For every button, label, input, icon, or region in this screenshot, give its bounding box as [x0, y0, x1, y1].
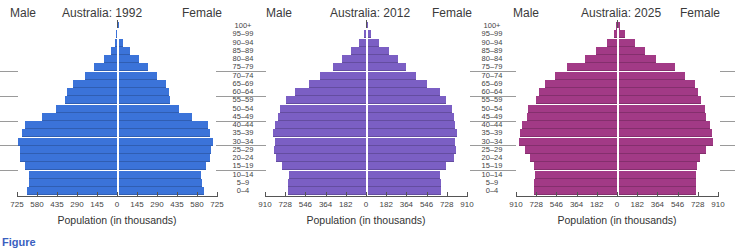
male-bar-55–59 — [536, 96, 617, 104]
x-tick — [617, 192, 618, 196]
x-tick — [698, 192, 699, 196]
male-bar-40–44 — [522, 121, 617, 129]
x-tick-label: 182 — [631, 200, 644, 209]
age-group-label: 40–44 — [477, 121, 507, 129]
age-group-label: 90–94 — [228, 39, 258, 47]
x-tick-label: 546 — [671, 200, 684, 209]
age-group-label: 5–9 — [477, 179, 507, 187]
guide-line — [720, 71, 735, 72]
female-bar-15–19 — [618, 162, 697, 170]
age-group-label: 55–59 — [228, 96, 258, 104]
x-tick — [536, 192, 537, 196]
guide-line — [0, 170, 18, 171]
female-bar-25–29 — [618, 146, 706, 154]
male-bar-50–54 — [528, 105, 617, 113]
age-group-label: 45–49 — [228, 113, 258, 121]
age-group-label: 45–49 — [477, 113, 507, 121]
age-group-label: 20–24 — [477, 154, 507, 162]
male-bar-60–64 — [539, 88, 617, 96]
male-bar-10–14 — [535, 171, 617, 179]
age-group-label: 30–34 — [477, 138, 507, 146]
female-bar-70–74 — [618, 72, 685, 80]
female-bar-5–9 — [618, 179, 696, 187]
age-group-label: 15–19 — [228, 162, 258, 170]
female-bar-95–99 — [618, 30, 625, 38]
x-tick — [637, 192, 638, 196]
female-bar-85–89 — [618, 47, 645, 55]
x-tick — [678, 192, 679, 196]
male-bar-75–79 — [567, 63, 617, 71]
age-group-label: 80–84 — [477, 55, 507, 63]
center-gap — [617, 28, 619, 199]
x-tick — [597, 192, 598, 196]
female-bar-55–59 — [618, 96, 701, 104]
age-group-label: 0–4 — [228, 187, 258, 195]
male-bar-65–69 — [545, 80, 617, 88]
age-group-label: 85–89 — [228, 47, 258, 55]
female-bar-30–34 — [618, 138, 713, 146]
age-group-label: 35–39 — [477, 129, 507, 137]
age-group-label: 70–74 — [228, 72, 258, 80]
age-group-label: 75–79 — [228, 63, 258, 71]
male-bar-45–49 — [527, 113, 617, 121]
chart-title: Australia: 2025 — [581, 6, 661, 20]
age-group-label: 95–99 — [477, 30, 507, 38]
guide-line — [720, 170, 735, 171]
age-group-label: 60–64 — [228, 88, 258, 96]
x-tick — [556, 192, 557, 196]
age-group-label: 40–44 — [228, 121, 258, 129]
female-bar-45–49 — [618, 113, 706, 121]
x-tick-label: 728 — [530, 200, 543, 209]
x-tick — [718, 192, 719, 196]
male-bar-80–84 — [585, 55, 617, 63]
female-bar-90–94 — [618, 39, 635, 47]
guide-line — [0, 71, 18, 72]
guide-line — [720, 121, 735, 122]
male-bar-15–19 — [534, 162, 617, 170]
x-tick-label: 546 — [550, 200, 563, 209]
x-axis-title: Population (in thousands) — [557, 214, 676, 226]
female-bar-50–54 — [618, 105, 705, 113]
male-label: Male — [513, 6, 539, 20]
male-bar-70–74 — [555, 72, 617, 80]
age-group-label: 65–69 — [228, 80, 258, 88]
x-tick — [657, 192, 658, 196]
male-bar-5–9 — [534, 179, 617, 187]
female-bar-60–64 — [618, 88, 698, 96]
age-group-label: 65–69 — [477, 80, 507, 88]
x-tick-label: 182 — [590, 200, 603, 209]
age-group-label: 60–64 — [477, 88, 507, 96]
x-axis — [516, 196, 719, 197]
age-group-label: 55–59 — [477, 96, 507, 104]
x-tick-label: 364 — [651, 200, 664, 209]
female-bar-40–44 — [618, 121, 710, 129]
x-tick-label: 910 — [509, 200, 522, 209]
age-group-label: 15–19 — [477, 162, 507, 170]
age-group-label: 100+ — [228, 22, 258, 30]
age-group-label: 70–74 — [477, 72, 507, 80]
x-tick-label: 0 — [615, 200, 619, 209]
male-bar-90–94 — [607, 39, 617, 47]
male-bar-30–34 — [519, 138, 617, 146]
x-tick-label: 728 — [691, 200, 704, 209]
guide-line — [0, 121, 18, 122]
female-label: Female — [680, 6, 720, 20]
male-bar-20–24 — [530, 154, 617, 162]
female-bar-75–79 — [618, 63, 675, 71]
age-group-label: 25–29 — [228, 146, 258, 154]
age-group-label: 80–84 — [228, 55, 258, 63]
x-tick-label: 364 — [570, 200, 583, 209]
age-group-label: 100+ — [477, 22, 507, 30]
age-group-label: 50–54 — [477, 105, 507, 113]
guide-line — [0, 145, 18, 146]
age-group-label: 35–39 — [228, 129, 258, 137]
female-bar-10–14 — [618, 171, 696, 179]
age-group-label: 95–99 — [228, 30, 258, 38]
female-bar-20–24 — [618, 154, 700, 162]
age-group-label: 50–54 — [228, 105, 258, 113]
age-group-label: 30–34 — [228, 138, 258, 146]
age-group-label: 5–9 — [228, 179, 258, 187]
guide-line — [720, 96, 735, 97]
male-bar-85–89 — [596, 47, 617, 55]
